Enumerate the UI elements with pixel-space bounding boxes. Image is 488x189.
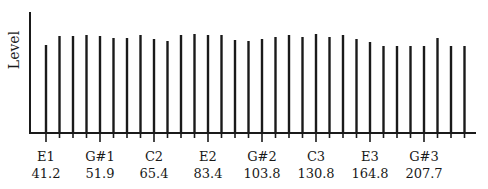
x-tick-label: C3130.8 — [286, 148, 346, 182]
frequency-value: 103.8 — [232, 165, 292, 182]
x-tick-label: E141.2 — [16, 148, 76, 182]
note-name: G#2 — [232, 148, 292, 165]
frequency-value: 51.9 — [70, 165, 130, 182]
note-name: E1 — [16, 148, 76, 165]
x-tick-label: E283.4 — [178, 148, 238, 182]
frequency-value: 164.8 — [340, 165, 400, 182]
x-tick-label: C265.4 — [124, 148, 184, 182]
frequency-value: 65.4 — [124, 165, 184, 182]
x-tick-label: G#3207.7 — [394, 148, 454, 182]
note-name: C3 — [286, 148, 346, 165]
x-tick-label: E3164.8 — [340, 148, 400, 182]
frequency-value: 83.4 — [178, 165, 238, 182]
frequency-value: 41.2 — [16, 165, 76, 182]
note-name: G#3 — [394, 148, 454, 165]
note-name: G#1 — [70, 148, 130, 165]
frequency-value: 130.8 — [286, 165, 346, 182]
note-name: C2 — [124, 148, 184, 165]
note-name: E3 — [340, 148, 400, 165]
frequency-value: 207.7 — [394, 165, 454, 182]
x-tick-label: G#151.9 — [70, 148, 130, 182]
note-name: E2 — [178, 148, 238, 165]
x-tick-label: G#2103.8 — [232, 148, 292, 182]
